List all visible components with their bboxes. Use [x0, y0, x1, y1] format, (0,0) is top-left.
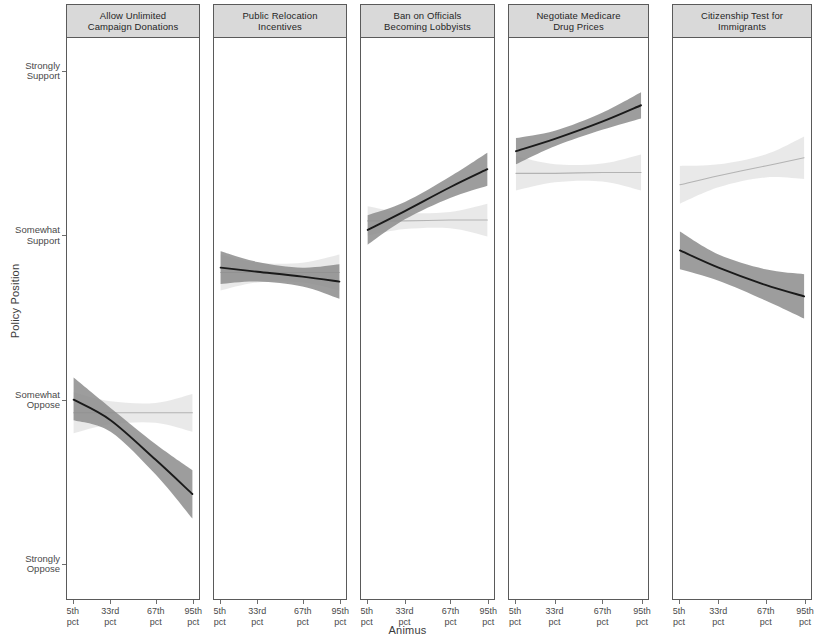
panel-title: Allow Unlimited Campaign Donations: [88, 10, 179, 32]
panel-svg: [67, 38, 199, 599]
x-tick-mark: [805, 600, 806, 604]
x-tick-mark: [257, 600, 258, 604]
panel-strip: Allow Unlimited Campaign Donations: [66, 4, 200, 38]
panel-plot-area: [672, 38, 812, 600]
x-tick-mark: [602, 600, 603, 604]
x-tick-mark: [73, 600, 74, 604]
x-tick-label: 67th pct: [433, 606, 467, 627]
x-tick-mark: [367, 600, 368, 604]
panel-title: Public Relocation Incentives: [242, 10, 317, 32]
y-tick-label: Somewhat Oppose: [4, 390, 60, 411]
x-tick-label: 5th pct: [56, 606, 90, 627]
chart-panel: Citizenship Test for Immigrants: [672, 4, 812, 600]
panel-strip: Citizenship Test for Immigrants: [672, 4, 812, 38]
x-tick-label: 67th pct: [749, 606, 783, 627]
facet-line-chart: Policy Position Animus Strongly SupportS…: [0, 0, 815, 643]
x-tick-label: 5th pct: [662, 606, 696, 627]
x-tick-label: 5th pct: [350, 606, 384, 627]
light-series-ci-band: [680, 136, 804, 203]
x-tick-label: 33rd pct: [701, 606, 735, 627]
dark-series-ci-band: [74, 378, 193, 519]
chart-panel: Allow Unlimited Campaign Donations: [66, 4, 200, 600]
panel-title: Negotiate Medicare Drug Prices: [536, 10, 620, 32]
x-tick-mark: [303, 600, 304, 604]
x-tick-label: 33rd pct: [93, 606, 127, 627]
x-tick-mark: [718, 600, 719, 604]
x-tick-mark: [488, 600, 489, 604]
x-tick-label: 67th pct: [286, 606, 320, 627]
panel-strip: Ban on Officials Becoming Lobbyists: [360, 4, 495, 38]
panel-plot-area: [213, 38, 347, 600]
chart-panel: Ban on Officials Becoming Lobbyists: [360, 4, 495, 600]
x-tick-mark: [679, 600, 680, 604]
panel-svg: [509, 38, 648, 599]
dark-series-ci-band: [516, 92, 641, 164]
x-tick-mark: [156, 600, 157, 604]
x-tick-mark: [340, 600, 341, 604]
panel-svg: [214, 38, 346, 599]
x-tick-mark: [193, 600, 194, 604]
panel-strip: Public Relocation Incentives: [213, 4, 347, 38]
panel-svg: [361, 38, 494, 599]
x-tick-mark: [766, 600, 767, 604]
chart-panel: Public Relocation Incentives: [213, 4, 347, 600]
x-tick-mark: [405, 600, 406, 604]
x-tick-label: 67th pct: [139, 606, 173, 627]
x-tick-label: 95th pct: [788, 606, 815, 627]
panel-svg: [673, 38, 811, 599]
y-tick-label: Strongly Oppose: [4, 554, 60, 575]
panel-plot-area: [66, 38, 200, 600]
y-tick-label: Strongly Support: [4, 61, 60, 82]
x-tick-label: 5th pct: [498, 606, 532, 627]
x-tick-mark: [220, 600, 221, 604]
x-tick-label: 5th pct: [203, 606, 237, 627]
y-tick-label: Somewhat Support: [4, 225, 60, 246]
x-tick-label: 95th pct: [625, 606, 659, 627]
x-tick-mark: [642, 600, 643, 604]
panel-plot-area: [360, 38, 495, 600]
panel-plot-area: [508, 38, 649, 600]
x-tick-label: 67th pct: [585, 606, 619, 627]
x-tick-mark: [450, 600, 451, 604]
x-tick-mark: [555, 600, 556, 604]
dark-series-ci-band: [680, 232, 804, 319]
chart-panel: Negotiate Medicare Drug Prices: [508, 4, 649, 600]
panel-title: Citizenship Test for Immigrants: [701, 10, 783, 32]
panel-title: Ban on Officials Becoming Lobbyists: [384, 10, 471, 32]
x-tick-mark: [515, 600, 516, 604]
x-tick-label: 33rd pct: [538, 606, 572, 627]
panel-strip: Negotiate Medicare Drug Prices: [508, 4, 649, 38]
x-tick-label: 33rd pct: [240, 606, 274, 627]
y-axis-title: Policy Position: [9, 241, 21, 361]
x-tick-label: 33rd pct: [388, 606, 422, 627]
x-tick-mark: [110, 600, 111, 604]
